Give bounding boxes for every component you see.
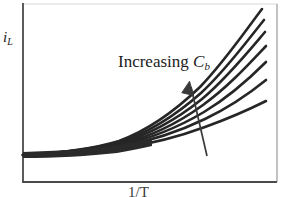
plot-svg xyxy=(0,0,289,197)
increasing-cb-annotation: Increasing Cb xyxy=(118,52,210,72)
annotation-variable: C xyxy=(193,52,204,71)
y-axis-label: iL xyxy=(3,29,13,47)
x-axis-label: 1/T xyxy=(128,184,149,197)
figure-canvas: iL 1/T Increasing Cb xyxy=(0,0,289,197)
curve-group xyxy=(23,9,266,155)
annotation-subscript: b xyxy=(204,60,210,72)
annotation-text: Increasing xyxy=(118,52,193,71)
y-axis-label-subscript: L xyxy=(7,36,13,47)
